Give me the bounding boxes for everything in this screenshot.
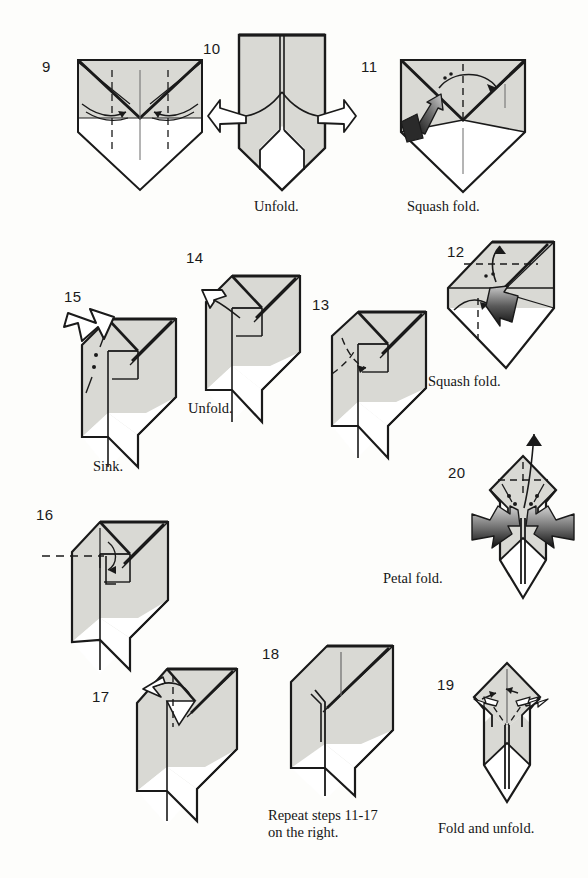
step-number-18: 18 [262, 645, 280, 662]
figure-step-13 [326, 302, 436, 462]
caption-step-19: Fold and unfold. [438, 820, 534, 837]
figure-step-19 [462, 657, 552, 807]
step-number-15: 15 [64, 288, 82, 305]
step-number-9: 9 [42, 58, 51, 75]
step-number-10: 10 [203, 40, 221, 57]
step-number-19: 19 [437, 676, 455, 693]
origami-diagram-page: 9 10 Unfold. [0, 0, 588, 878]
caption-step-15: Sink. [93, 458, 123, 475]
step-number-20: 20 [448, 464, 466, 481]
figure-step-15 [70, 305, 190, 475]
step-number-17: 17 [92, 688, 110, 705]
figure-step-17 [125, 653, 250, 828]
figure-step-10 [232, 30, 332, 190]
figure-step-9 [70, 40, 210, 190]
step-number-11: 11 [361, 58, 378, 75]
figure-step-11 [393, 42, 533, 192]
figure-step-18 [285, 638, 405, 803]
caption-step-18: Repeat steps 11-17 on the right. [268, 807, 378, 841]
caption-step-11: Squash fold. [407, 198, 480, 215]
step-number-13: 13 [312, 296, 330, 313]
step-number-16: 16 [36, 506, 54, 523]
caption-step-14: Unfold. [188, 400, 233, 417]
step-number-12: 12 [447, 243, 465, 260]
caption-step-20: Petal fold. [383, 570, 443, 587]
step-number-14: 14 [186, 249, 204, 266]
caption-step-10: Unfold. [254, 198, 299, 215]
caption-step-12: Squash fold. [428, 373, 501, 390]
figure-step-20 [468, 448, 578, 613]
